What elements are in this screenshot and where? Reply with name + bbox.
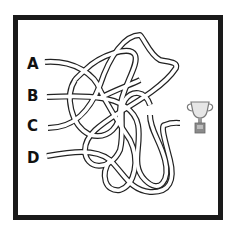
trophy-icon [185,100,215,136]
